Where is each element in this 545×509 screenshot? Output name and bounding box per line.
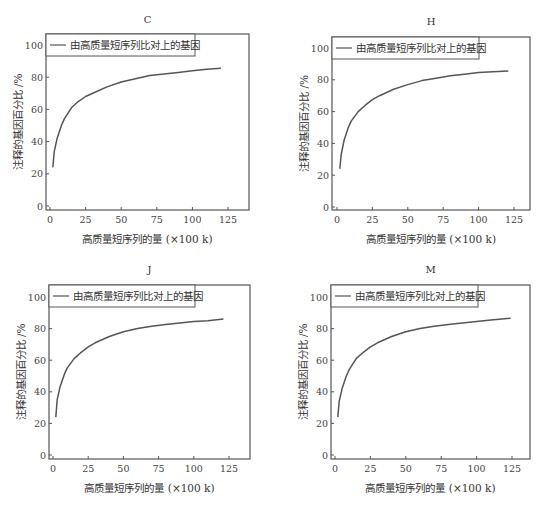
y-tick-label: 0	[37, 201, 43, 212]
chart-panel-m: M0204060801000255075100125高质量短序列的量 (×100…	[297, 264, 530, 494]
y-tick-label: 80	[34, 323, 46, 334]
series-line	[340, 71, 509, 169]
x-tick-label: 0	[334, 214, 340, 225]
x-axis-label: 高质量短序列的量 (×100 k)	[366, 233, 496, 245]
x-tick-label: 50	[400, 463, 412, 474]
plot-frame	[49, 285, 250, 459]
x-tick-label: 75	[151, 214, 163, 225]
x-tick-label: 125	[503, 463, 521, 474]
x-tick-label: 125	[505, 214, 523, 225]
chart-panel-j: J0204060801000255075100125高质量短序列的量 (×100…	[15, 264, 250, 494]
x-tick-label: 25	[364, 463, 376, 474]
legend-label: 由高质量短序列比对上的基因	[356, 42, 486, 54]
y-tick-label: 80	[317, 74, 329, 85]
y-axis-label: 注释的基因百分比 /%	[12, 74, 24, 171]
x-tick-label: 50	[115, 214, 127, 225]
x-tick-label: 100	[183, 214, 201, 225]
chart-title: C	[144, 14, 152, 25]
x-tick-label: 50	[117, 463, 129, 474]
y-tick-label: 20	[317, 170, 329, 181]
legend-label: 由高质量短序列比对上的基因	[73, 290, 203, 302]
x-tick-label: 100	[468, 463, 486, 474]
plot-frame	[332, 37, 530, 210]
y-tick-label: 0	[323, 202, 329, 213]
y-tick-label: 80	[316, 323, 328, 334]
chart-panel-c: C0204060801000255075100125高质量短序列的量 (×100…	[12, 14, 249, 245]
x-axis-label: 高质量短序列的量 (×100 k)	[365, 482, 495, 494]
x-tick-label: 75	[153, 463, 165, 474]
legend-label: 由高质量短序列比对上的基因	[355, 290, 485, 302]
y-tick-label: 60	[316, 355, 328, 366]
plot-frame	[46, 34, 249, 210]
chart-panel-h: H0204060801000255075100125高质量短序列的量 (×100…	[298, 16, 530, 245]
y-tick-label: 100	[310, 292, 328, 303]
y-tick-label: 20	[34, 418, 46, 429]
charts-svg: C0204060801000255075100125高质量短序列的量 (×100…	[0, 0, 545, 509]
plot-frame	[331, 285, 530, 459]
y-tick-label: 60	[34, 355, 46, 366]
x-tick-label: 75	[437, 214, 449, 225]
series-line	[53, 68, 221, 167]
series-line	[338, 318, 511, 417]
series-line	[56, 319, 224, 417]
y-tick-label: 40	[31, 136, 43, 147]
x-tick-label: 100	[185, 463, 203, 474]
y-tick-label: 40	[317, 138, 329, 149]
y-tick-label: 80	[31, 72, 43, 83]
y-tick-label: 0	[322, 450, 328, 461]
chart-title: J	[146, 264, 151, 275]
x-tick-label: 0	[47, 214, 53, 225]
legend-label: 由高质量短序列比对上的基因	[70, 39, 200, 51]
x-tick-label: 25	[82, 463, 94, 474]
y-tick-label: 20	[31, 168, 43, 179]
x-tick-label: 125	[220, 463, 238, 474]
y-axis-label: 注释的基因百分比 /%	[298, 75, 310, 172]
chart-title: H	[427, 16, 436, 27]
y-tick-label: 100	[25, 40, 43, 51]
y-tick-label: 100	[311, 43, 329, 54]
y-tick-label: 20	[316, 418, 328, 429]
y-axis-label: 注释的基因百分比 /%	[15, 324, 27, 421]
x-tick-label: 100	[470, 214, 488, 225]
y-tick-label: 40	[316, 386, 328, 397]
x-axis-label: 高质量短序列的量 (×100 k)	[82, 233, 212, 245]
x-tick-label: 125	[219, 214, 237, 225]
y-tick-label: 40	[34, 386, 46, 397]
x-axis-label: 高质量短序列的量 (×100 k)	[84, 482, 214, 494]
chart-title: M	[425, 264, 435, 275]
y-tick-label: 60	[31, 104, 43, 115]
x-tick-label: 0	[332, 463, 338, 474]
x-tick-label: 0	[50, 463, 56, 474]
x-tick-label: 75	[435, 463, 447, 474]
x-tick-label: 50	[402, 214, 414, 225]
y-tick-label: 100	[28, 292, 46, 303]
y-tick-label: 60	[317, 106, 329, 117]
x-tick-label: 25	[80, 214, 92, 225]
y-tick-label: 0	[40, 450, 46, 461]
x-tick-label: 25	[366, 214, 378, 225]
y-axis-label: 注释的基因百分比 /%	[297, 324, 309, 421]
